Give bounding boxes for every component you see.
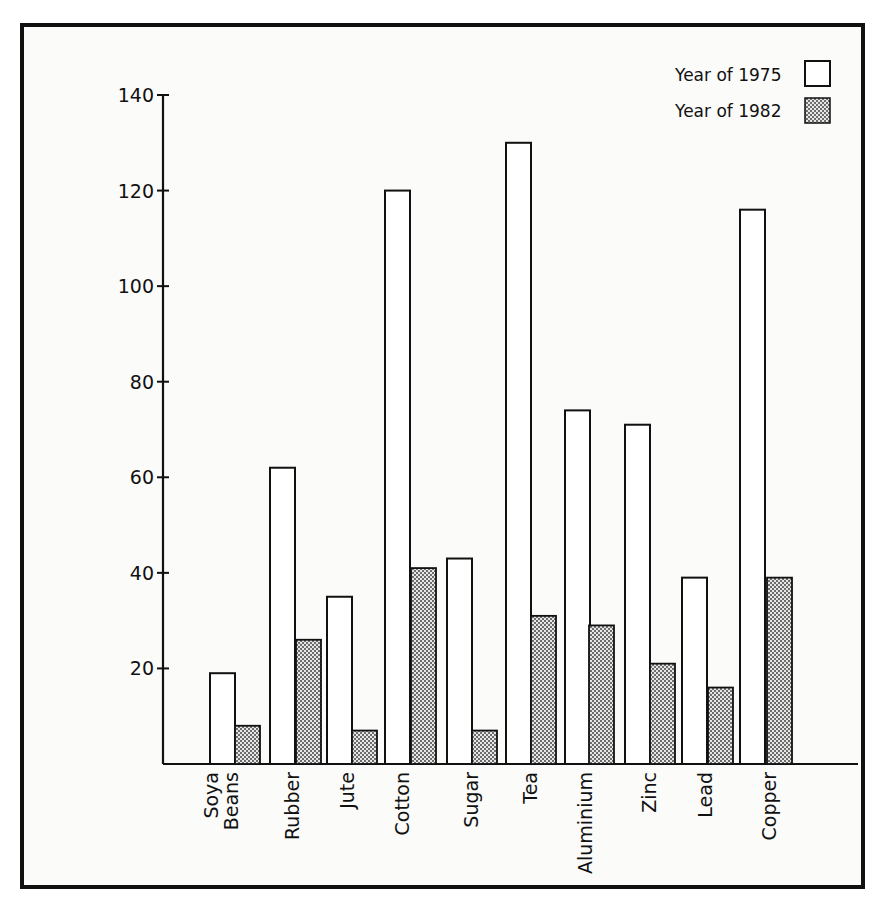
- category-label-text: Beans: [220, 772, 242, 830]
- y-tick-label: 60: [130, 466, 154, 488]
- bar-1982-cotton: [411, 568, 436, 764]
- bar-1975-lead: [682, 578, 707, 764]
- category-label-rubber: Rubber: [281, 772, 303, 840]
- y-tick-label: 20: [130, 657, 154, 679]
- category-label-text: Jute: [336, 772, 358, 810]
- bar-chart: 20406080100120140 SoyaBeansRubberJuteCot…: [0, 0, 893, 907]
- y-tick-label: 100: [118, 275, 154, 297]
- category-label-text: Lead: [694, 772, 716, 818]
- category-label-lead: Lead: [694, 772, 716, 818]
- category-label-cotton: Cotton: [391, 772, 413, 835]
- bars: [210, 143, 792, 764]
- bar-1982-soya-beans: [235, 726, 260, 764]
- category-label-text: Sugar: [460, 772, 482, 828]
- bar-1982-sugar: [472, 731, 497, 764]
- bar-1975-aluminium: [565, 410, 590, 764]
- y-tick-label: 80: [130, 371, 154, 393]
- bar-1975-rubber: [270, 468, 295, 764]
- bar-1982-rubber: [296, 640, 321, 764]
- category-label-copper: Copper: [758, 772, 780, 841]
- category-label-sugar: Sugar: [460, 772, 482, 828]
- y-tick-label: 40: [130, 562, 154, 584]
- legend-swatch-1975: [805, 61, 830, 86]
- category-label-text: Tea: [519, 772, 541, 805]
- legend-swatch-1982: [805, 98, 830, 123]
- bar-1975-copper: [740, 210, 765, 764]
- bar-1975-soya-beans: [210, 673, 235, 764]
- bar-1982-copper: [767, 578, 792, 764]
- y-tick-label: 120: [118, 180, 154, 202]
- bar-1975-sugar: [447, 559, 472, 764]
- category-label-jute: Jute: [336, 772, 358, 810]
- category-labels: SoyaBeansRubberJuteCottonSugarTeaAlumini…: [200, 772, 780, 874]
- legend: Year of 1975 Year of 1982: [674, 61, 830, 123]
- bar-1975-cotton: [385, 191, 410, 764]
- category-label-soya-beans: SoyaBeans: [200, 772, 242, 830]
- category-label-tea: Tea: [519, 772, 541, 805]
- bar-1982-tea: [531, 616, 556, 764]
- category-label-text: Rubber: [281, 772, 303, 840]
- bar-1982-zinc: [650, 664, 675, 764]
- category-label-aluminium: Aluminium: [574, 772, 596, 874]
- category-label-zinc: Zinc: [638, 772, 660, 813]
- bar-1975-tea: [506, 143, 531, 764]
- legend-label-1975: Year of 1975: [674, 65, 781, 85]
- y-tick-label: 140: [118, 84, 154, 106]
- category-label-text: Cotton: [391, 772, 413, 835]
- category-label-text: Zinc: [638, 772, 660, 813]
- category-label-text: Copper: [758, 772, 780, 841]
- bar-1982-jute: [352, 731, 377, 764]
- bar-1975-jute: [327, 597, 352, 764]
- bar-1982-aluminium: [589, 625, 614, 764]
- category-label-text: Soya: [200, 772, 222, 819]
- category-label-text: Aluminium: [574, 772, 596, 874]
- bar-1975-zinc: [625, 425, 650, 764]
- legend-label-1982: Year of 1982: [674, 101, 781, 121]
- bar-1982-lead: [708, 688, 733, 764]
